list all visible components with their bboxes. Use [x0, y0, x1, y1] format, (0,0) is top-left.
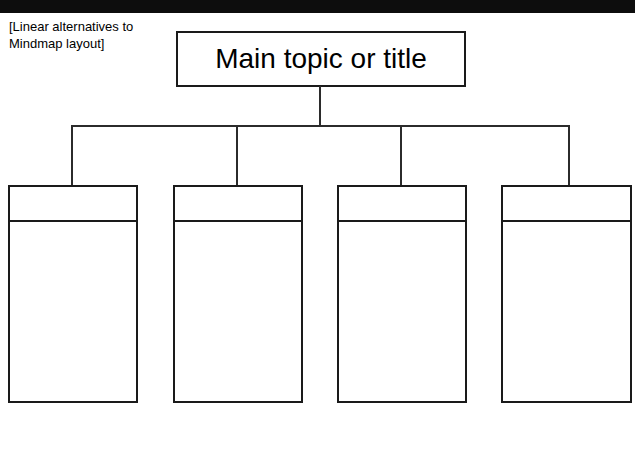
child-box-4-header[interactable]	[503, 187, 630, 222]
child-box-1-header[interactable]	[10, 187, 136, 222]
child-box-3-header-label	[339, 187, 465, 193]
connector-drop-2	[236, 125, 238, 186]
caption-note: [Linear alternatives to Mindmap layout]	[9, 18, 174, 52]
child-box-3[interactable]	[337, 185, 467, 403]
child-box-2[interactable]	[173, 185, 303, 403]
top-header-bar	[0, 0, 635, 13]
child-box-2-header-label	[175, 187, 301, 193]
connector-bus-horizontal	[71, 125, 570, 127]
child-box-3-body-label	[339, 222, 465, 228]
child-box-4[interactable]	[501, 185, 632, 403]
child-box-3-header[interactable]	[339, 187, 465, 222]
child-box-2-body-label	[175, 222, 301, 228]
child-box-1-header-label	[10, 187, 136, 193]
child-box-4-body-label	[503, 222, 630, 228]
main-topic-label: Main topic or title	[215, 44, 427, 74]
child-box-2-header[interactable]	[175, 187, 301, 222]
child-box-2-body[interactable]	[175, 222, 301, 401]
child-box-1[interactable]	[8, 185, 138, 403]
connector-drop-1	[71, 125, 73, 186]
connector-stem-vertical	[319, 86, 321, 127]
connector-drop-4	[568, 125, 570, 186]
child-box-3-body[interactable]	[339, 222, 465, 401]
child-box-4-header-label	[503, 187, 630, 193]
connector-drop-3	[400, 125, 402, 186]
child-box-4-body[interactable]	[503, 222, 630, 401]
child-box-1-body-label	[10, 222, 136, 228]
main-topic-box[interactable]: Main topic or title	[176, 31, 466, 87]
child-box-1-body[interactable]	[10, 222, 136, 401]
